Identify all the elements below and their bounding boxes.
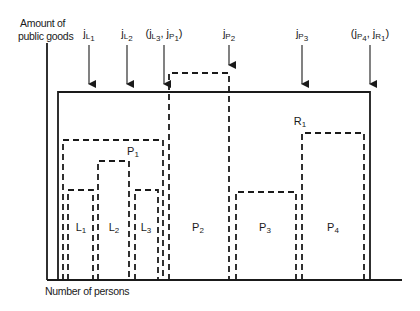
solid-region-r1 (58, 92, 370, 280)
region-label-p3: P3 (259, 222, 271, 235)
arrow-label: jP3 (296, 28, 308, 43)
y-axis-label-line2: public goods (18, 31, 73, 42)
arrow-label: (jL3, jP1) (145, 28, 182, 43)
arrow-label: jP2 (223, 28, 235, 43)
region-label-l1: L1 (76, 222, 87, 235)
region-label-l3: L3 (141, 222, 152, 235)
region-p3-dashed-outline (236, 192, 296, 280)
arrow-label: (jP4, jR1) (351, 28, 389, 43)
region-label-p2: P2 (192, 222, 204, 235)
region-label-p1: P1 (127, 146, 139, 159)
x-axis-label: Number of persons (45, 286, 129, 297)
region-p4-dashed-outline (302, 133, 364, 280)
region-l3-dashed-outline (135, 190, 158, 280)
public-goods-diagram (0, 0, 420, 311)
region-r1-solid-outline (58, 92, 370, 280)
arrow-label: jL2 (121, 28, 132, 43)
region-label-r1: R1 (294, 116, 306, 129)
region-l1-dashed-outline (68, 190, 93, 280)
region-label-l2: L2 (109, 222, 120, 235)
region-p2-dashed-outline (169, 73, 229, 280)
arrow-label: jL1 (83, 28, 94, 43)
dashed-regions (63, 73, 364, 280)
region-label-p4: P4 (327, 222, 339, 235)
y-axis-label-line1: Amount of (20, 18, 65, 29)
